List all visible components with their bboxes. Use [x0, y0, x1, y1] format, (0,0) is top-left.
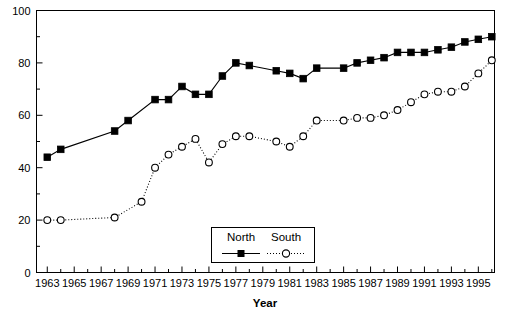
chart-container: 020406080100 196319651967196919711973197… [0, 0, 505, 319]
data-point-south [421, 91, 428, 98]
data-point-south [246, 133, 253, 140]
y-tick-label: 60 [18, 109, 30, 121]
data-point-south [57, 217, 64, 224]
x-tick-label: 1981 [278, 277, 302, 289]
data-point-south [367, 115, 374, 122]
data-point-north [394, 49, 401, 56]
data-point-south [44, 217, 51, 224]
data-point-north [354, 60, 361, 67]
y-tick-label: 100 [12, 5, 30, 17]
y-tick-label: 40 [18, 162, 30, 174]
data-point-north [435, 47, 442, 54]
y-tick-label: 80 [18, 57, 30, 69]
x-tick-label: 1985 [331, 277, 355, 289]
data-point-south [354, 115, 361, 122]
data-point-north [206, 91, 213, 98]
data-point-south [448, 88, 455, 95]
data-point-south [394, 107, 401, 114]
data-point-south [138, 198, 145, 205]
data-point-south [192, 135, 199, 142]
data-point-north [462, 39, 469, 46]
legend-label-north: North [227, 231, 255, 243]
data-point-north [300, 75, 307, 82]
x-tick-label: 1965 [62, 277, 86, 289]
x-axis-title: Year [253, 297, 278, 309]
data-point-north [340, 65, 347, 72]
x-tick-label: 1991 [412, 277, 436, 289]
data-point-south [165, 151, 172, 158]
x-tick-label: 1995 [466, 277, 490, 289]
data-point-north [367, 57, 374, 64]
y-tick-label: 0 [24, 267, 30, 279]
data-point-south [206, 159, 213, 166]
x-tick-label: 1973 [170, 277, 194, 289]
data-point-south [313, 117, 320, 124]
data-point-north [233, 60, 240, 67]
data-point-south [488, 57, 495, 64]
y-axis-tick-labels: 020406080100 [12, 5, 30, 279]
data-point-south [286, 143, 293, 150]
x-tick-label: 1979 [251, 277, 275, 289]
x-tick-label: 1987 [358, 277, 382, 289]
data-point-south [273, 138, 280, 145]
data-point-south [232, 133, 239, 140]
data-point-north [313, 65, 320, 72]
data-point-south [152, 164, 159, 171]
data-point-south [461, 83, 468, 90]
data-point-north [44, 154, 51, 161]
data-point-north [475, 36, 482, 43]
chart-legend: North South [212, 228, 315, 263]
data-point-south [381, 112, 388, 119]
data-point-north [179, 83, 186, 90]
y-tick-label: 20 [18, 214, 30, 226]
data-point-south [179, 143, 186, 150]
x-tick-label: 1967 [89, 277, 113, 289]
legend-label-south: South [271, 231, 301, 243]
data-point-south [475, 70, 482, 77]
data-point-south [219, 141, 226, 148]
data-point-north [125, 117, 132, 124]
x-axis-tick-labels: 1963196519671969197119731975197719791981… [35, 277, 491, 289]
data-point-north [246, 62, 253, 69]
data-point-south [340, 117, 347, 124]
data-point-north [192, 91, 199, 98]
data-point-north [489, 33, 496, 40]
data-point-south [435, 88, 442, 95]
data-point-north [57, 146, 64, 153]
data-point-north [408, 49, 415, 56]
x-tick-label: 1989 [385, 277, 409, 289]
data-point-south [300, 133, 307, 140]
data-point-north [286, 70, 293, 77]
line-chart: 020406080100 196319651967196919711973197… [0, 0, 505, 319]
x-tick-label: 1993 [439, 277, 463, 289]
x-tick-label: 1975 [197, 277, 221, 289]
x-tick-label: 1983 [304, 277, 328, 289]
data-point-north [421, 49, 428, 56]
data-point-north [219, 73, 226, 80]
data-point-north [111, 128, 118, 135]
data-point-north [448, 44, 455, 51]
x-tick-label: 1963 [35, 277, 59, 289]
legend-marker-south [282, 250, 289, 257]
legend-marker-north [238, 250, 245, 257]
data-point-north [165, 96, 172, 103]
x-tick-label: 1971 [143, 277, 167, 289]
data-point-north [152, 96, 159, 103]
data-point-north [273, 67, 280, 74]
data-point-north [381, 54, 388, 61]
data-point-south [408, 99, 415, 106]
x-tick-label: 1977 [224, 277, 248, 289]
x-tick-label: 1969 [116, 277, 140, 289]
data-point-south [111, 214, 118, 221]
